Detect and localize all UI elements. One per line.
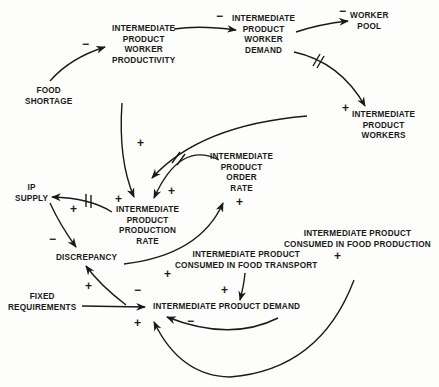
- node-food-shortage: FOOD SHORTAGE: [25, 86, 72, 107]
- arrow-worker-demand-to-worker-pool: [296, 21, 348, 32]
- polarity-sign: +: [221, 284, 228, 296]
- polarity-sign: +: [137, 137, 144, 149]
- polarity-sign: −: [216, 10, 223, 22]
- polarity-sign: −: [49, 233, 56, 245]
- arrow-fixed-requirements-to-demand: [82, 306, 145, 307]
- node-fixed-requirements: FIXED REQUIREMENTS: [8, 292, 76, 313]
- arrow-production-rate-to-ip-supply: [52, 197, 112, 212]
- polarity-sign: −: [82, 38, 89, 50]
- polarity-sign: −: [339, 5, 346, 17]
- polarity-sign: +: [168, 185, 175, 197]
- polarity-sign: +: [334, 250, 341, 262]
- causal-loop-diagram: INTERMEDIATE PRODUCT WORKER PRODUCTIVITY…: [0, 0, 439, 387]
- polarity-sign: +: [342, 102, 349, 114]
- arrow-demand-self-loop: [167, 317, 278, 330]
- node-ip-supply: IP SUPPLY: [15, 183, 48, 204]
- node-ip-production-rate: INTERMEDIATE PRODUCT PRODUCTION RATE: [116, 205, 179, 247]
- node-ip-order-rate: INTERMEDIATE PRODUCT ORDER RATE: [210, 152, 273, 194]
- arrow-worker-demand-to-workers: [294, 52, 365, 106]
- polarity-sign: +: [115, 193, 122, 205]
- polarity-sign: +: [164, 268, 171, 280]
- node-ip-consumed-food-transport: INTERMEDIATE PRODUCT CONSUMED IN FOOD TR…: [175, 250, 318, 271]
- node-discrepancy: DISCREPANCY: [56, 253, 117, 264]
- polarity-sign: +: [236, 196, 243, 208]
- polarity-sign: −: [134, 284, 141, 296]
- node-ip-worker-demand: INTERMEDIATE PRODUCT WORKER DEMAND: [232, 14, 295, 56]
- arrow-productivity-to-worker-demand: [174, 27, 236, 30]
- node-ip-demand: INTERMEDIATE PRODUCT DEMAND: [153, 302, 300, 313]
- polarity-sign: +: [85, 280, 92, 292]
- node-ip-consumed-food-production: INTERMEDIATE PRODUCT CONSUMED IN FOOD PR…: [284, 229, 431, 250]
- node-worker-pool: WORKER POOL: [350, 11, 389, 32]
- polarity-sign: +: [70, 203, 77, 215]
- arrow-transport-to-demand: [240, 273, 245, 300]
- arrow-food-production-to-demand: [154, 280, 354, 377]
- node-ip-workers: INTERMEDIATE PRODUCT WORKERS: [352, 110, 415, 142]
- arrow-productivity-to-production-rate: [121, 103, 134, 197]
- polarity-sign: −: [187, 315, 194, 327]
- arrow-food-shortage-to-productivity: [50, 47, 105, 81]
- polarity-sign: +: [134, 317, 141, 329]
- node-ip-worker-productivity: INTERMEDIATE PRODUCT WORKER PRODUCTIVITY: [112, 24, 175, 66]
